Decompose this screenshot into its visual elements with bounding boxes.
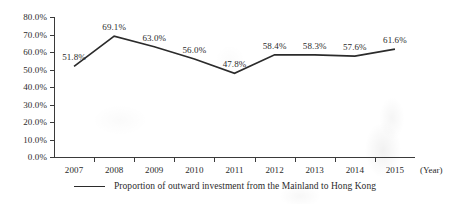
plot-area: 0.0%10.0%20.0%30.0%40.0%50.0%60.0%70.0%8…	[54, 17, 415, 157]
x-axis-tick	[94, 158, 95, 162]
data-point-label: 69.1%	[102, 22, 126, 32]
y-axis-tick-label: 40.0%	[23, 83, 47, 92]
x-axis-tick-label: 2014	[346, 165, 364, 175]
x-axis-tick	[375, 158, 376, 162]
y-axis-tick-label: 10.0%	[23, 135, 47, 144]
data-point-label: 61.6%	[383, 35, 407, 45]
data-point-label: 58.3%	[303, 41, 327, 51]
x-axis-tick	[214, 158, 215, 162]
x-axis-tick	[134, 158, 135, 162]
y-axis-tick-label: 20.0%	[23, 118, 47, 127]
x-axis-tick-label: 2007	[65, 165, 83, 175]
data-point-label: 63.0%	[142, 33, 166, 43]
x-axis-tick	[335, 158, 336, 162]
y-axis-tick-label: 30.0%	[23, 100, 47, 109]
x-axis-unit-label: (Year)	[420, 165, 443, 175]
data-point-label: 47.8%	[223, 59, 247, 69]
x-axis-tick-label: 2008	[105, 165, 123, 175]
x-axis-tick-label: 2015	[386, 165, 404, 175]
chart-figure: 0.0%10.0%20.0%30.0%40.0%50.0%60.0%70.0%8…	[0, 0, 450, 204]
data-point-label: 58.4%	[263, 41, 287, 51]
legend-item-label: Proportion of outward investment from th…	[114, 181, 376, 192]
y-axis-tick-label: 70.0%	[23, 30, 47, 39]
data-point-label: 56.0%	[183, 45, 207, 55]
y-axis-tick-label: 60.0%	[23, 48, 47, 57]
data-point-label: 51.8%	[62, 52, 86, 62]
y-axis-tick-label: 0.0%	[28, 153, 47, 162]
x-axis-tick	[295, 158, 296, 162]
x-axis-tick-label: 2012	[265, 165, 283, 175]
x-axis-tick-label: 2010	[185, 165, 203, 175]
legend-line-swatch	[74, 186, 105, 187]
data-point-label: 57.6%	[343, 42, 367, 52]
chart-legend: Proportion of outward investment from th…	[0, 181, 450, 192]
y-axis-tick-label: 80.0%	[23, 13, 47, 22]
x-axis-tick	[255, 158, 256, 162]
x-axis-tick-label: 2009	[145, 165, 163, 175]
y-axis-tick-label: 50.0%	[23, 65, 47, 74]
x-axis-tick-label: 2011	[225, 165, 243, 175]
x-axis-tick	[174, 158, 175, 162]
series-line-proportion-of-outward-investment	[54, 17, 415, 158]
x-axis-tick-label: 2013	[306, 165, 324, 175]
